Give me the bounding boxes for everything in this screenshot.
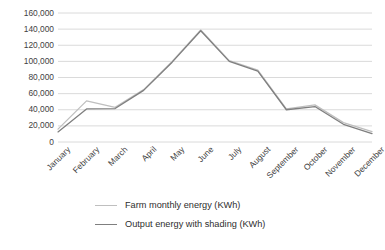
y-tick-label: 120,000 [0,41,54,50]
legend-line-icon [95,205,117,206]
plot-svg [58,13,372,142]
y-tick-label: 80,000 [0,73,54,82]
legend-item-label: Farm monthly energy (KWh) [125,200,240,211]
x-axis: JanuaryFebruaryMarchAprilMayJuneJulyAugu… [58,143,372,193]
legend-item[interactable]: Output energy with shading (KWh) [95,215,335,234]
plot-area [58,13,372,142]
gridlines [58,13,372,142]
y-tick-label: 20,000 [0,121,54,130]
chart-legend: Farm monthly energy (KWh)Output energy w… [95,196,335,234]
legend-line-icon [95,224,117,225]
y-tick-label: 40,000 [0,105,54,114]
y-tick-label: 60,000 [0,89,54,98]
legend-item-label: Output energy with shading (KWh) [125,219,265,230]
y-tick-label: 0 [0,138,54,147]
series-line [58,31,372,134]
legend-item[interactable]: Farm monthly energy (KWh) [95,196,335,215]
line-chart: 160,000140,000120,000100,00080,00060,000… [0,0,385,250]
y-tick-label: 140,000 [0,25,54,34]
y-tick-label: 100,000 [0,57,54,66]
y-tick-label: 160,000 [0,9,54,18]
